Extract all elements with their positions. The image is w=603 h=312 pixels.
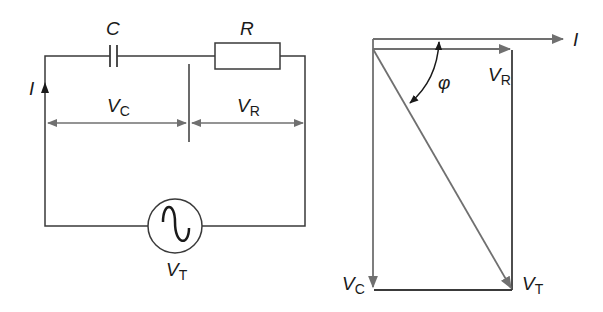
wire-right: [202, 56, 305, 226]
phasor-vc-label: VC: [342, 273, 365, 297]
vr-label: VR: [237, 95, 260, 119]
circuit: C R I VC VR VT: [29, 18, 305, 283]
current-arrow-icon: [41, 82, 49, 93]
ac-source: [148, 199, 202, 253]
phasor-diagram: I VR VC VT φ: [342, 29, 579, 297]
phasor-current-label: I: [573, 29, 579, 50]
resistor: [215, 43, 280, 69]
capacitor: [110, 45, 117, 67]
current-label: I: [29, 78, 35, 99]
source-label: VT: [166, 259, 188, 283]
capacitor-label: C: [106, 18, 120, 39]
phasor-vr-label: VR: [488, 64, 511, 88]
rc-circuit-diagram: C R I VC VR VT I: [0, 0, 603, 312]
phase-angle-arc: [410, 42, 439, 103]
phasor-vt-label: VT: [522, 273, 544, 297]
wire-left: [45, 56, 148, 226]
vc-label: VC: [107, 95, 130, 119]
resistor-label: R: [240, 18, 254, 39]
phase-angle-label: φ: [438, 72, 450, 93]
